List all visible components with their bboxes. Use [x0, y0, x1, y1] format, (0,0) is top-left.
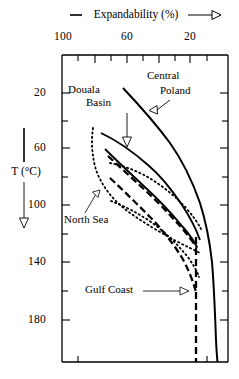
left-axis-tick-label-180: 180	[28, 313, 46, 325]
right-axis-ticks	[220, 93, 228, 320]
left-axis-ticks	[62, 93, 70, 320]
top-axis-ticks	[78, 55, 207, 63]
left-axis-tick-label-20: 20	[34, 86, 46, 98]
central-poland-pointer-arrow-icon	[149, 100, 170, 114]
top-axis-tick-label-20: 20	[184, 30, 196, 42]
top-axis-tick-label-60: 60	[121, 30, 133, 42]
annotation-north-sea: North Sea	[64, 214, 108, 226]
gulf-coast-pointer-arrow-icon	[143, 287, 189, 295]
curve-douala-basin-upper	[101, 133, 200, 240]
top-axis-tick-label-100: 100	[54, 30, 72, 42]
north-sea-pointer-arrow-icon	[85, 190, 100, 213]
left-axis-tick-label-140: 140	[28, 255, 46, 267]
temperature-axis-title: T (°C)	[11, 165, 41, 177]
legend-label: Expandability (%)	[94, 8, 179, 20]
expandability-temperature-figure: Expandability (%) 100 60 20 20 60 100 14…	[0, 0, 239, 379]
legend-right-arrow-icon	[188, 11, 221, 20]
temperature-axis-arrow-icon	[20, 128, 29, 228]
annotation-central-poland-line2: Poland	[160, 85, 191, 97]
annotation-central-poland-line1: Central	[147, 70, 179, 82]
curve-north-sea-upper	[92, 128, 200, 253]
left-axis-tick-label-100: 100	[28, 198, 46, 210]
left-axis-tick-label-60: 60	[34, 141, 46, 153]
annotation-douala-basin-line1: Douala	[68, 84, 100, 96]
douala-basin-pointer-arrow-icon	[123, 113, 132, 147]
curve-central-poland	[123, 88, 218, 362]
annotation-gulf-coast: Gulf Coast	[85, 284, 133, 296]
annotation-douala-basin-line2: Basin	[86, 97, 111, 109]
bottom-axis-ticks	[78, 356, 207, 362]
